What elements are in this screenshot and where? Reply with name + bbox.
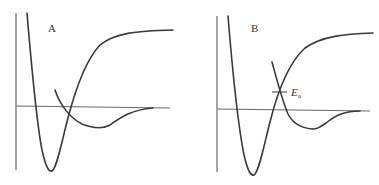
- diagram-canvas: A Ea B: [0, 0, 379, 185]
- panel-b-shallow-well-curve: [272, 62, 360, 129]
- panel-a: A: [16, 13, 173, 171]
- panel-a-deep-well-curve: [27, 13, 173, 171]
- panel-b-label: B: [251, 22, 258, 34]
- panel-b: Ea B: [217, 16, 373, 175]
- activation-energy-label: Ea: [290, 86, 302, 100]
- panel-b-x-axis: [217, 109, 370, 111]
- panel-a-x-axis: [16, 106, 170, 108]
- panel-a-label: A: [48, 22, 56, 34]
